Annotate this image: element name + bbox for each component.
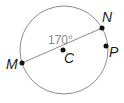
- label-c: C: [64, 50, 75, 66]
- angle-label: 170°: [48, 33, 73, 47]
- circle-diagram: M C N P 170°: [0, 0, 124, 103]
- point-m: [20, 61, 25, 66]
- point-n: [100, 26, 105, 31]
- label-n: N: [102, 9, 113, 25]
- label-m: M: [6, 56, 18, 72]
- point-p: [104, 44, 109, 49]
- label-p: P: [109, 44, 119, 60]
